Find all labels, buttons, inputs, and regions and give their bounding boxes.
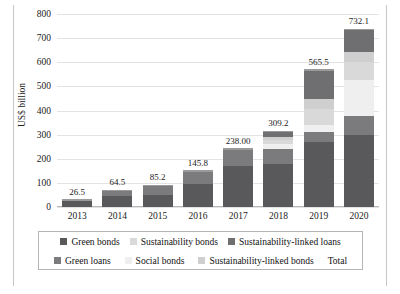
x-axis-tick: 2015 (148, 211, 167, 221)
total-marker (304, 69, 334, 71)
legend-swatch-icon (130, 238, 137, 245)
bar-stack[interactable] (304, 71, 334, 207)
x-axis-tick: 2013 (68, 211, 87, 221)
chart-figure: US$ billion 0100200300400500600700800 26… (0, 0, 400, 294)
bar-segment (304, 71, 334, 99)
bar-segment (223, 150, 253, 167)
legend-label: Sustainability-linked loans (239, 237, 341, 247)
legend-item[interactable]: Green loans (54, 256, 111, 266)
bar-stack[interactable] (102, 191, 132, 207)
y-axis-tick: 500 (37, 81, 51, 91)
total-marker (344, 29, 374, 31)
bar-stack[interactable] (223, 150, 253, 207)
legend-swatch-icon (228, 238, 235, 245)
legend-item[interactable]: Green bonds (60, 237, 119, 247)
legend-label: Sustainability bonds (141, 237, 218, 247)
y-axis-tick: 600 (37, 57, 51, 67)
x-axis-tick: 2019 (309, 211, 328, 221)
bar-column: 85.22015 (138, 14, 178, 207)
bar-segment (344, 30, 374, 52)
y-axis-tick: 800 (37, 9, 51, 19)
bar-value-label: 145.8 (188, 158, 208, 168)
bar-segment (304, 109, 334, 125)
bar-value-label: 732.1 (349, 16, 369, 26)
legend-label: Total (328, 256, 347, 266)
bar-value-label: 85.2 (150, 172, 166, 182)
x-axis-tick: 2016 (188, 211, 207, 221)
bar-segment (344, 52, 374, 62)
bar-segment (223, 166, 253, 207)
legend-item[interactable]: Sustainability-linked bonds (198, 256, 313, 266)
chart-legend: Green bondsSustainability bondsSustainab… (38, 231, 363, 270)
bar-segment (344, 80, 374, 116)
bar-segment (304, 132, 334, 142)
legend-swatch-icon (198, 257, 205, 264)
bar-stack[interactable] (183, 172, 213, 207)
y-axis-tick: 300 (37, 130, 51, 140)
legend-swatch-icon (125, 257, 132, 264)
total-marker (62, 199, 92, 201)
y-axis-tick: 100 (37, 178, 51, 188)
y-axis-label: US$ billion (17, 83, 27, 127)
legend-label: Sustainability-linked bonds (209, 256, 313, 266)
bar-segment (304, 142, 334, 207)
bar-segment (143, 186, 173, 194)
legend-item[interactable]: Sustainability-linked loans (228, 237, 341, 247)
legend-swatch-icon (54, 257, 61, 264)
total-marker (223, 148, 253, 150)
total-marker (143, 185, 173, 187)
bar-value-label: 64.5 (110, 177, 126, 187)
x-axis-tick: 2018 (269, 211, 288, 221)
bar-series-container: 26.5201364.5201485.22015145.82016238.002… (57, 14, 379, 207)
bar-segment (344, 135, 374, 207)
bar-column: 145.82016 (178, 14, 218, 207)
legend-swatch-icon (60, 238, 67, 245)
y-axis-tick: 200 (37, 154, 51, 164)
legend-item[interactable]: Total (328, 256, 347, 266)
bar-segment (304, 99, 334, 109)
bar-segment (183, 184, 213, 207)
bar-segment (344, 62, 374, 81)
bar-column: 64.52014 (97, 14, 137, 207)
bar-column: 309.22018 (258, 14, 298, 207)
y-axis-tick: 700 (37, 33, 51, 43)
bar-column: 26.52013 (57, 14, 97, 207)
bar-segment (102, 196, 132, 207)
x-axis-tick: 2014 (108, 211, 127, 221)
y-axis-tick: 400 (37, 106, 51, 116)
bar-segment (263, 164, 293, 207)
bar-value-label: 309.2 (268, 118, 288, 128)
bar-segment (183, 172, 213, 184)
bar-segment (304, 125, 334, 132)
total-marker (102, 190, 132, 192)
legend-row-2: Green loansSocial bondsSustainability-li… (39, 251, 362, 270)
total-marker (263, 131, 293, 133)
bar-segment (344, 116, 374, 135)
bar-column: 238.002017 (218, 14, 258, 207)
x-axis-tick: 2017 (229, 211, 248, 221)
bar-column: 565.52019 (299, 14, 339, 207)
legend-item[interactable]: Sustainability bonds (130, 237, 218, 247)
plot-area: 0100200300400500600700800 26.5201364.520… (57, 14, 379, 207)
legend-label: Green bonds (71, 237, 119, 247)
bar-value-label: 26.5 (69, 187, 85, 197)
total-marker (183, 170, 213, 172)
bar-segment (62, 201, 92, 207)
bar-stack[interactable] (344, 30, 374, 207)
legend-label: Green loans (65, 256, 111, 266)
gridline (57, 207, 379, 208)
legend-label: Social bonds (136, 256, 185, 266)
bar-column: 732.12020 (339, 14, 379, 207)
bar-stack[interactable] (62, 201, 92, 207)
legend-item[interactable]: Social bonds (125, 256, 185, 266)
legend-row-1: Green bondsSustainability bondsSustainab… (39, 232, 362, 251)
bar-stack[interactable] (143, 186, 173, 207)
y-axis-tick: 0 (46, 202, 51, 212)
chart-title (13, 0, 387, 2)
x-axis-tick: 2020 (349, 211, 368, 221)
bar-value-label: 565.5 (309, 57, 329, 67)
bar-value-label: 238.00 (226, 136, 251, 146)
bar-segment (263, 149, 293, 163)
bar-stack[interactable] (263, 132, 293, 207)
bar-segment (143, 195, 173, 207)
